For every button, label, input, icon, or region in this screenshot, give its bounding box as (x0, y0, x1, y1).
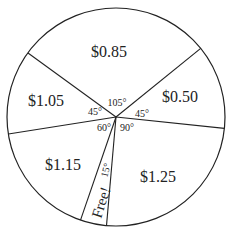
angle-label-105: 105° (108, 97, 127, 108)
angle-label-90: 90° (120, 122, 134, 133)
angle-label-45-right: 45° (135, 108, 149, 119)
sector-label-115: $1.15 (45, 156, 81, 173)
angle-label-45-left: 45° (88, 106, 102, 117)
sector-label-125: $1.25 (140, 168, 176, 185)
sector-label-105: $1.05 (28, 92, 64, 109)
sector-label-085: $0.85 (91, 43, 127, 60)
angle-label-60: 60° (97, 122, 111, 133)
spinner-diagram: $0.85 $0.50 $1.05 $1.15 $1.25 Free! 105°… (0, 0, 228, 236)
sector-label-050: $0.50 (162, 88, 198, 105)
